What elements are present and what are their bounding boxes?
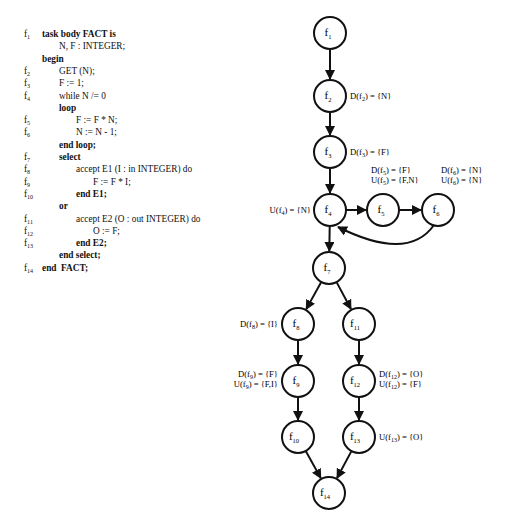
node-f1: f1 bbox=[314, 17, 346, 49]
annotation-f8: D(f8) = {I} bbox=[240, 319, 278, 330]
node-f10: f10 bbox=[282, 421, 314, 453]
edge-f7-f11 bbox=[337, 282, 351, 309]
annotation-f4: U(f4) = {N} bbox=[270, 205, 311, 216]
edge-f7-f8 bbox=[306, 282, 321, 309]
node-f13: f13 bbox=[343, 421, 375, 453]
node-f12: f12 bbox=[343, 365, 375, 397]
node-f11: f11 bbox=[343, 308, 375, 340]
annotation-f5: U(f5) = {F,N} bbox=[371, 175, 419, 186]
flow-graph: f1f2f3f4f5f6f7f8f11f9f12f10f13f14 D(f2) … bbox=[0, 0, 508, 521]
node-f2: f2 bbox=[314, 80, 346, 112]
node-f3: f3 bbox=[314, 136, 346, 168]
node-f14: f14 bbox=[313, 477, 345, 509]
annotation-f2: D(f2) = {N} bbox=[350, 91, 391, 102]
node-f9: f9 bbox=[282, 365, 314, 397]
node-f8: f8 bbox=[282, 308, 314, 340]
annotation-f6: U(f6) = {N} bbox=[441, 175, 482, 186]
annotation-f12: U(f12) = {F} bbox=[379, 379, 422, 390]
annotation-f9: U(f9) = {F,I} bbox=[234, 379, 278, 390]
node-f4: f4 bbox=[314, 194, 346, 226]
loop-back-edge bbox=[338, 225, 434, 244]
edge-f13-f14 bbox=[337, 451, 351, 478]
node-f5: f5 bbox=[367, 194, 399, 226]
annotation-f13: U(f13) = {O} bbox=[379, 432, 423, 443]
node-f6: f6 bbox=[422, 194, 454, 226]
node-f7: f7 bbox=[313, 252, 345, 284]
edge-f10-f14 bbox=[306, 451, 321, 478]
annotation-f3: D(f3) = {F} bbox=[350, 147, 390, 158]
